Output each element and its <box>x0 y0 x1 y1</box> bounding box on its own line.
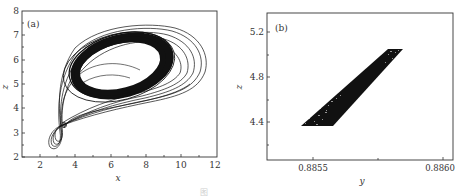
y-tick-label: 5 <box>13 79 19 89</box>
panel-b-tag: (b) <box>275 23 288 33</box>
y-tick-label: 8 <box>13 6 19 16</box>
panel-b-x-tick-labels: 0.8855 0.8860 <box>298 163 455 173</box>
panel-a-x-axis-label: x <box>115 173 120 183</box>
panel-b-y-ticks <box>267 32 270 145</box>
x-tick-label: 2 <box>37 160 43 170</box>
x-tick-label: 0.8855 <box>298 163 328 173</box>
y-tick-label: 5.2 <box>250 27 264 37</box>
y-tick-label: 4 <box>13 103 19 113</box>
x-tick-label: 10 <box>175 160 187 170</box>
panel-a: 2 3 4 5 6 7 8 2 4 6 8 10 12 x z (a) <box>0 6 221 183</box>
panel-a-y-tick-labels: 2 3 4 5 6 7 8 <box>13 6 19 162</box>
panel-a-attractor <box>49 20 206 148</box>
y-tick-label: 4.8 <box>250 72 265 82</box>
panel-a-y-axis-label: z <box>0 84 10 90</box>
x-tick-label: 4 <box>72 160 78 170</box>
panel-a-tag: (a) <box>27 19 39 29</box>
panel-b-x-axis-label: y <box>358 176 365 186</box>
panel-b-y-axis-label: z <box>234 84 244 90</box>
panel-b-section-band <box>301 49 403 126</box>
x-tick-label: 12 <box>209 160 220 170</box>
y-tick-label: 3 <box>13 128 19 138</box>
y-tick-label: 7 <box>13 30 19 40</box>
figure: 2 3 4 5 6 7 8 2 4 6 8 10 12 x z (a) <box>0 0 462 196</box>
x-tick-label: 8 <box>143 160 149 170</box>
x-tick-label: 6 <box>108 160 114 170</box>
y-tick-label: 6 <box>13 55 19 65</box>
panel-b-y-tick-labels: 5.2 4.8 4.4 <box>250 27 265 127</box>
figure-caption: 图 <box>200 186 208 196</box>
y-tick-label: 4.4 <box>250 117 265 127</box>
panel-b: 5.2 4.8 4.4 0.8855 0.8860 y z (b) <box>234 13 455 186</box>
panel-a-x-tick-labels: 2 4 6 8 10 12 <box>37 160 221 170</box>
x-tick-label: 0.8860 <box>425 163 455 173</box>
y-tick-label: 2 <box>13 152 19 162</box>
